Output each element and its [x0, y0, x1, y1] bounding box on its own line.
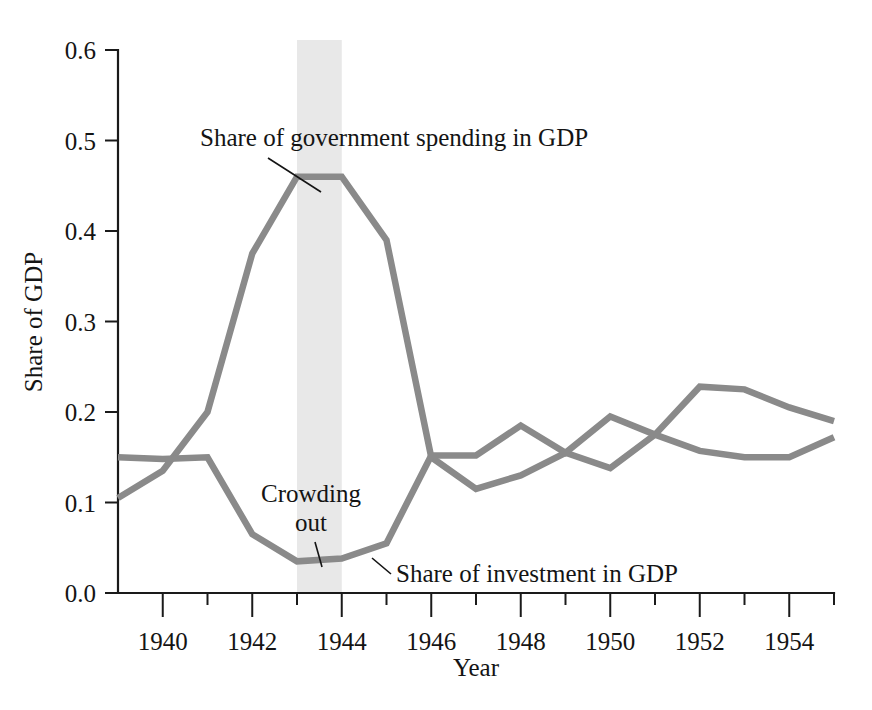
- inv-series-label: Share of investment in GDP: [396, 560, 678, 587]
- crowding-out-label-line2: out: [295, 509, 327, 536]
- y-axis-tick-label: 0.1: [65, 490, 96, 517]
- x-axis-tick-label: 1946: [406, 628, 456, 655]
- y-axis-tick-label: 0.3: [65, 309, 96, 336]
- x-axis-tick-label: 1952: [675, 628, 725, 655]
- y-axis-tick-label: 0.4: [65, 218, 97, 245]
- crowding-out-label-line1: Crowding: [261, 480, 362, 507]
- gov-series-label: Share of government spending in GDP: [200, 124, 588, 151]
- y-axis-tick-label: 0.5: [65, 128, 96, 155]
- line-chart: 0.00.10.20.30.40.50.6 194019421944194619…: [0, 0, 872, 710]
- x-axis-tick-label: 1944: [317, 628, 368, 655]
- x-axis-tick-label: 1950: [585, 628, 635, 655]
- x-axis-tick-label: 1954: [764, 628, 815, 655]
- chart-background: [0, 0, 872, 710]
- chart-figure: 0.00.10.20.30.40.50.6 194019421944194619…: [0, 0, 872, 710]
- y-axis-tick-label: 0.2: [65, 399, 96, 426]
- x-axis-tick-label: 1942: [227, 628, 277, 655]
- x-axis-tick-label: 1948: [496, 628, 546, 655]
- x-axis-tick-label: 1940: [138, 628, 188, 655]
- y-axis-tick-label: 0.0: [65, 580, 96, 607]
- x-axis-title: Year: [453, 654, 500, 681]
- y-axis-title: Share of GDP: [20, 252, 47, 392]
- y-axis-tick-label: 0.6: [65, 37, 96, 64]
